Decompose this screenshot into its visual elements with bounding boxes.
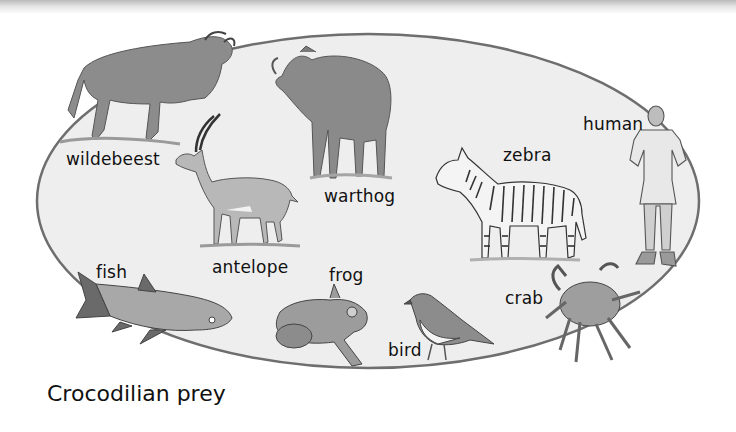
label-antelope: antelope bbox=[212, 259, 288, 276]
prey-diagram bbox=[0, 0, 736, 432]
label-zebra: zebra bbox=[503, 147, 552, 164]
label-wildebeest: wildebeest bbox=[66, 151, 160, 168]
label-fish: fish bbox=[96, 264, 127, 281]
label-warthog: warthog bbox=[324, 188, 395, 205]
label-crab: crab bbox=[505, 290, 543, 307]
label-human: human bbox=[583, 116, 643, 133]
label-bird: bird bbox=[388, 342, 422, 359]
diagram-caption: Crocodilian prey bbox=[47, 383, 226, 405]
label-frog: frog bbox=[329, 267, 364, 284]
